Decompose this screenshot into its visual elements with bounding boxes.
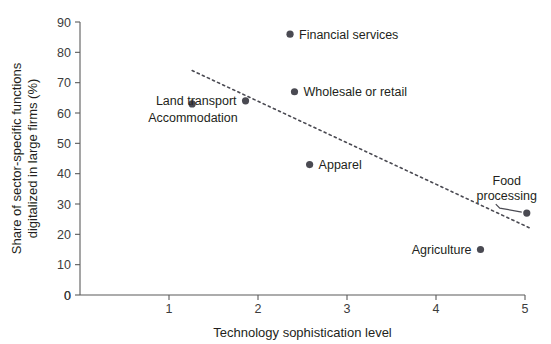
data-point-marker[interactable] (477, 246, 484, 253)
y-axis: 0102030405060708090 (57, 16, 80, 303)
data-point-label: processing (477, 189, 537, 203)
chart-canvas: 0102030405060708090 012345 Financial ser… (0, 0, 551, 344)
data-point-label: Land transport (156, 94, 237, 108)
scatter-chart: 0102030405060708090 012345 Financial ser… (0, 0, 551, 344)
y-tick-label: 20 (57, 228, 71, 242)
y-tick-label: 10 (57, 258, 71, 272)
y-tick-label: 30 (57, 198, 71, 212)
y-tick-label: 60 (57, 107, 71, 121)
y-axis-title-line2: digitalized in large firms (%) (25, 79, 40, 239)
y-tick-label: 80 (57, 46, 71, 60)
data-point-marker[interactable] (523, 210, 530, 217)
y-axis-title-line1: Share of sector-specific functions (9, 62, 24, 254)
x-tick-label: 4 (433, 302, 440, 316)
data-point-label: Financial services (299, 28, 398, 42)
data-point-label: Food (493, 174, 522, 188)
data-point-label: Agriculture (412, 243, 472, 257)
x-tick-label: 2 (255, 302, 262, 316)
y-tick-label: 40 (57, 167, 71, 181)
data-point-label: Apparel (319, 158, 362, 172)
data-point-label: Wholesale or retail (303, 85, 407, 99)
x-axis: 012345 (64, 289, 528, 316)
y-tick-label: 70 (57, 76, 71, 90)
data-point-marker[interactable] (291, 88, 298, 95)
data-point-marker[interactable] (286, 31, 293, 38)
x-tick-label: 3 (344, 302, 351, 316)
data-point-marker[interactable] (306, 161, 313, 168)
point-labels: Financial servicesWholesale or retailLan… (148, 28, 537, 257)
x-tick-label: 5 (522, 302, 529, 316)
data-point-marker[interactable] (242, 97, 249, 104)
data-points (189, 31, 531, 254)
x-axis-title: Technology sophistication level (213, 325, 392, 340)
data-point-label: Accommodation (148, 111, 238, 125)
y-tick-label: 90 (57, 16, 71, 30)
x-tick-label: 0 (64, 289, 71, 303)
x-tick-label: 1 (166, 302, 173, 316)
y-tick-label: 50 (57, 137, 71, 151)
label-leader-line (496, 204, 522, 212)
